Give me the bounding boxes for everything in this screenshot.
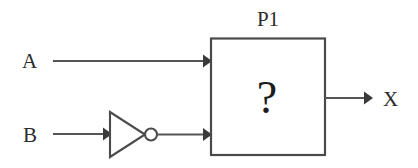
block-p1-unknown-glyph: ? [257,72,277,123]
logic-circuit-diagram: A B P1 ? [0,0,418,168]
wire-inverter-to-p1 [157,128,212,141]
input-label-b: B [23,123,37,147]
block-p1-label: P1 [257,7,279,31]
not-gate-inverter [110,112,157,157]
inverter-bubble-icon [145,129,157,141]
arrowhead-x-output [364,92,373,105]
input-label-a: A [22,49,38,73]
wire-p1-to-x [325,92,373,105]
output-label-x: X [383,87,398,111]
inverter-triangle-icon [110,112,145,157]
circuit-schematic-canvas: A B P1 ? [0,0,418,168]
wire-a-to-p1 [53,55,212,68]
wire-b-to-inverter [53,128,112,141]
